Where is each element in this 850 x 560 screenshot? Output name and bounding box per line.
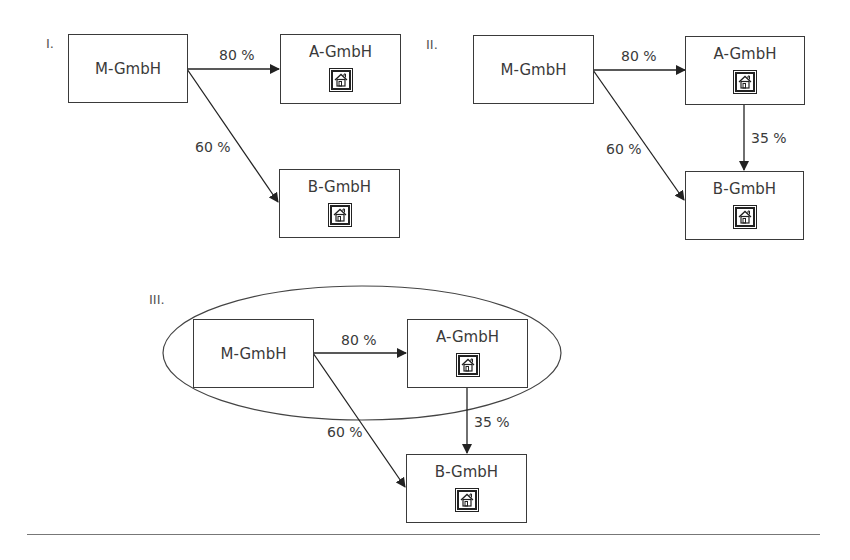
ownership-diagrams: I. M-GmbH A-GmbH B-GmbH 80 % 60 % II. M-… (0, 0, 850, 560)
box-label: B-GmbH (686, 180, 803, 198)
diagram-label-1: I. (46, 36, 54, 51)
subsidiary-box-b-gmbh: B-GmbH (279, 169, 400, 238)
bottom-divider (27, 534, 820, 535)
subsidiary-box-a-gmbh: A-GmbH (280, 34, 401, 104)
box-label: A-GmbH (408, 328, 527, 346)
edge-label-m-a: 80 % (219, 47, 255, 63)
diagram-label-2: II. (426, 37, 438, 52)
box-label: M-GmbH (69, 60, 187, 78)
edge-label-a-b: 35 % (751, 130, 787, 146)
subsidiary-box-b-gmbh: B-GmbH (685, 171, 804, 240)
edge-label-m-b: 60 % (327, 424, 363, 440)
edge-label-m-b: 60 % (606, 141, 642, 157)
arrow-m-to-b-1 (187, 69, 278, 202)
subsidiary-box-b-gmbh: B-GmbH (406, 454, 527, 523)
edge-label-m-a: 80 % (621, 48, 657, 64)
arrow-m-to-b-2 (593, 70, 684, 200)
box-label: A-GmbH (281, 43, 400, 61)
box-label: B-GmbH (407, 463, 526, 481)
house-icon (330, 205, 350, 225)
subsidiary-box-a-gmbh: A-GmbH (407, 319, 528, 388)
box-label: M-GmbH (194, 345, 313, 363)
edge-label-a-b: 35 % (474, 414, 510, 430)
box-label: M-GmbH (474, 61, 593, 79)
box-label: B-GmbH (280, 178, 399, 196)
arrow-m-to-b-3 (313, 353, 405, 487)
parent-box-m-gmbh: M-GmbH (193, 319, 314, 388)
house-icon (457, 490, 477, 510)
edge-label-m-a: 80 % (341, 332, 377, 348)
edge-label-m-b: 60 % (195, 139, 231, 155)
house-icon (735, 207, 755, 227)
house-icon (458, 355, 478, 375)
parent-box-m-gmbh: M-GmbH (68, 34, 188, 103)
parent-box-m-gmbh: M-GmbH (473, 35, 594, 104)
diagram-label-3: III. (149, 292, 165, 307)
box-label: A-GmbH (686, 45, 804, 63)
subsidiary-box-a-gmbh: A-GmbH (685, 36, 805, 105)
house-icon (331, 70, 351, 90)
house-icon (735, 72, 755, 92)
